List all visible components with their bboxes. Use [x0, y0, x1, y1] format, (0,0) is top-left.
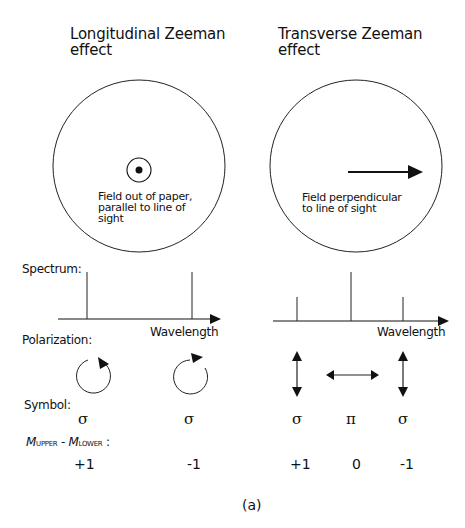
left-panel-title: Longitudinal Zeeman effect — [70, 26, 225, 58]
m-symbol: M — [68, 435, 78, 449]
right-title-line-1: Transverse Zeeman — [278, 26, 422, 42]
left-title-line-1: Longitudinal Zeeman — [70, 26, 225, 42]
left-field-caption: Field out of paper, parallel to line of … — [98, 191, 192, 224]
left-spectrum-axis — [58, 314, 221, 324]
field-out-of-paper-dot-icon — [127, 158, 151, 182]
circular-clockwise-icon — [174, 353, 208, 394]
left-symbol-sigma-minus: σ — [184, 410, 194, 428]
right-delta-m-plus1: +1 — [290, 456, 311, 472]
right-symbol-sigma-minus: σ — [398, 410, 408, 428]
lower-subscript: LOWER — [79, 440, 103, 448]
right-field-caption: Field perpendicular to line of sight — [302, 192, 402, 214]
left-delta-m-minus1: -1 — [187, 456, 201, 472]
caption-line: sight — [98, 213, 192, 224]
caption-line: to line of sight — [302, 203, 402, 214]
polarization-label: Polarization: — [22, 334, 92, 347]
circular-clockwise-icon — [76, 357, 110, 393]
left-title-line-2: effect — [70, 42, 225, 58]
m-symbol: M — [26, 435, 36, 449]
upper-subscript: UPPER — [36, 440, 57, 448]
left-view-circle — [53, 80, 225, 252]
vertical-double-arrow-icon — [398, 351, 408, 397]
right-title-line-2: effect — [278, 42, 422, 58]
right-delta-m-zero: 0 — [352, 456, 361, 472]
right-symbol-pi: π — [346, 410, 356, 428]
left-wavelength-label: Wavelength — [150, 326, 218, 339]
right-panel-title: Transverse Zeeman effect — [278, 26, 422, 58]
field-arrow-right-icon — [348, 165, 423, 179]
vertical-double-arrow-icon — [292, 351, 302, 397]
right-delta-m-minus1: -1 — [400, 456, 414, 472]
right-symbol-sigma-plus: σ — [292, 410, 302, 428]
right-wavelength-label: Wavelength — [377, 326, 445, 339]
left-symbol-sigma-plus: σ — [78, 410, 88, 428]
spectrum-label: Spectrum: — [22, 263, 82, 276]
minus-sign: - — [57, 435, 68, 449]
delta-m-label: MUPPER - MLOWER : — [26, 436, 110, 451]
colon: : — [102, 435, 109, 449]
panel-label: (a) — [242, 497, 262, 513]
symbol-label: Symbol: — [24, 399, 71, 412]
horizontal-double-arrow-icon — [326, 370, 379, 380]
right-view-circle — [270, 80, 442, 252]
left-delta-m-plus1: +1 — [74, 456, 95, 472]
